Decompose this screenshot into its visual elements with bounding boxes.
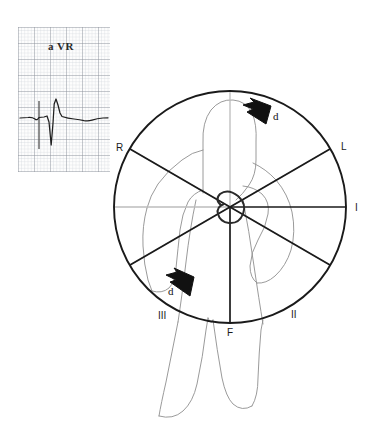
vector-label-d-lower: d bbox=[168, 285, 174, 297]
axis-II-positive bbox=[230, 207, 330, 265]
positive-axes-group bbox=[130, 149, 346, 323]
axis-label-I: I bbox=[355, 202, 358, 213]
axis-R-positive bbox=[130, 149, 230, 207]
axis-label-L: L bbox=[341, 141, 347, 152]
axis-L-positive bbox=[230, 149, 330, 207]
negative-axes-group bbox=[114, 91, 330, 265]
ecg-hexaxial-figure: a VR bbox=[0, 0, 370, 429]
axis-label-II: II bbox=[291, 309, 297, 320]
hexaxial-reference-layer bbox=[0, 0, 370, 429]
axis-label-R: R bbox=[116, 142, 123, 153]
axis-label-F: F bbox=[227, 327, 233, 338]
d-arrow-upper-icon bbox=[243, 98, 271, 124]
axis-III-positive bbox=[130, 207, 230, 265]
axis-label-III: III bbox=[158, 310, 166, 321]
vector-label-d-upper: d bbox=[273, 110, 279, 122]
